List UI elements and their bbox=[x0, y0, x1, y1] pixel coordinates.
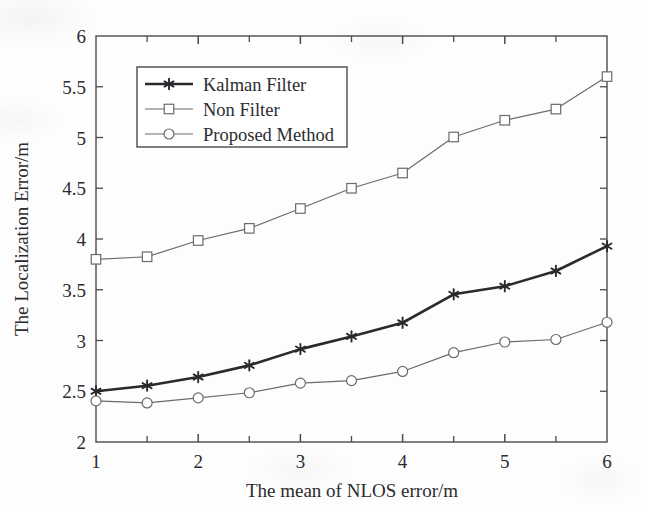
marker-circle bbox=[295, 378, 305, 388]
chart-legend: Kalman FilterNon FilterProposed Method bbox=[137, 67, 347, 147]
x-axis-title: The mean of NLOS error/m bbox=[246, 480, 458, 501]
x-tick-label: 1 bbox=[91, 451, 101, 472]
y-tick-label: 6 bbox=[77, 26, 87, 47]
y-tick-label: 4.5 bbox=[62, 178, 86, 199]
y-tick-label: 2 bbox=[77, 432, 87, 453]
marker-circle bbox=[193, 393, 203, 403]
marker-circle bbox=[500, 337, 510, 347]
marker-circle bbox=[551, 334, 561, 344]
marker-square bbox=[142, 252, 152, 262]
marker-square bbox=[398, 168, 408, 178]
marker-circle bbox=[398, 366, 408, 376]
y-tick-label: 5 bbox=[77, 128, 87, 149]
series-kalman-filter bbox=[91, 241, 611, 397]
x-tick-label: 5 bbox=[500, 451, 510, 472]
marker-square bbox=[551, 104, 561, 114]
marker-circle bbox=[347, 376, 357, 386]
line-chart: 22.533.544.555.56 123456 The mean of NLO… bbox=[0, 0, 647, 510]
chart-page: 22.533.544.555.56 123456 The mean of NLO… bbox=[0, 0, 647, 510]
x-tick-label: 4 bbox=[398, 451, 408, 472]
marker-square bbox=[347, 184, 357, 194]
marker-square bbox=[296, 204, 306, 214]
marker-square bbox=[164, 104, 174, 114]
x-tick-label: 6 bbox=[602, 451, 612, 472]
x-tick-label: 3 bbox=[296, 451, 306, 472]
marker-circle bbox=[449, 348, 459, 358]
marker-circle bbox=[91, 396, 101, 406]
series-line bbox=[96, 246, 607, 391]
marker-circle bbox=[142, 398, 152, 408]
marker-square bbox=[500, 115, 510, 125]
y-tick-label: 4 bbox=[77, 229, 87, 250]
y-tick-label: 2.5 bbox=[62, 381, 86, 402]
marker-square bbox=[602, 72, 612, 82]
marker-square bbox=[245, 224, 255, 234]
legend-label: Kalman Filter bbox=[203, 75, 306, 95]
legend-label: Proposed Method bbox=[203, 125, 335, 145]
y-axis-title: The Localization Error/m bbox=[11, 142, 32, 336]
marker-circle bbox=[602, 317, 612, 327]
marker-square bbox=[91, 255, 101, 264]
y-tick-label: 3.5 bbox=[62, 280, 86, 301]
marker-square bbox=[193, 236, 203, 246]
x-tick-label: 2 bbox=[193, 451, 203, 472]
y-tick-label: 5.5 bbox=[62, 77, 86, 98]
marker-circle bbox=[164, 129, 174, 139]
marker-circle bbox=[244, 388, 254, 398]
marker-square bbox=[449, 132, 459, 142]
legend-label: Non Filter bbox=[203, 100, 280, 120]
y-tick-label: 3 bbox=[77, 331, 87, 352]
